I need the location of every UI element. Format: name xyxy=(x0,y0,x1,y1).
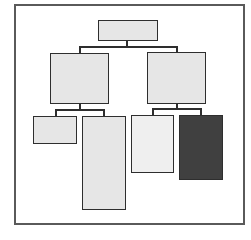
connector-leaf2-drop xyxy=(103,109,105,116)
tree-node-right-child xyxy=(147,52,206,104)
connector-leaf3-drop xyxy=(152,108,154,115)
tree-node-left-child xyxy=(50,53,109,104)
tree-node-leaf-1 xyxy=(33,116,77,144)
connector-leaf1-drop xyxy=(55,109,57,116)
connector-left-bar xyxy=(55,109,104,111)
connector-leaf4-drop xyxy=(200,108,202,115)
connector-right-bar xyxy=(152,108,201,110)
tree-node-leaf-2 xyxy=(82,116,126,210)
tree-node-root xyxy=(98,20,158,41)
tree-node-leaf-4-highlighted xyxy=(179,115,223,180)
tree-node-leaf-3 xyxy=(131,115,174,173)
connector-root-bar xyxy=(79,46,177,48)
connector-left-drop xyxy=(79,46,81,53)
